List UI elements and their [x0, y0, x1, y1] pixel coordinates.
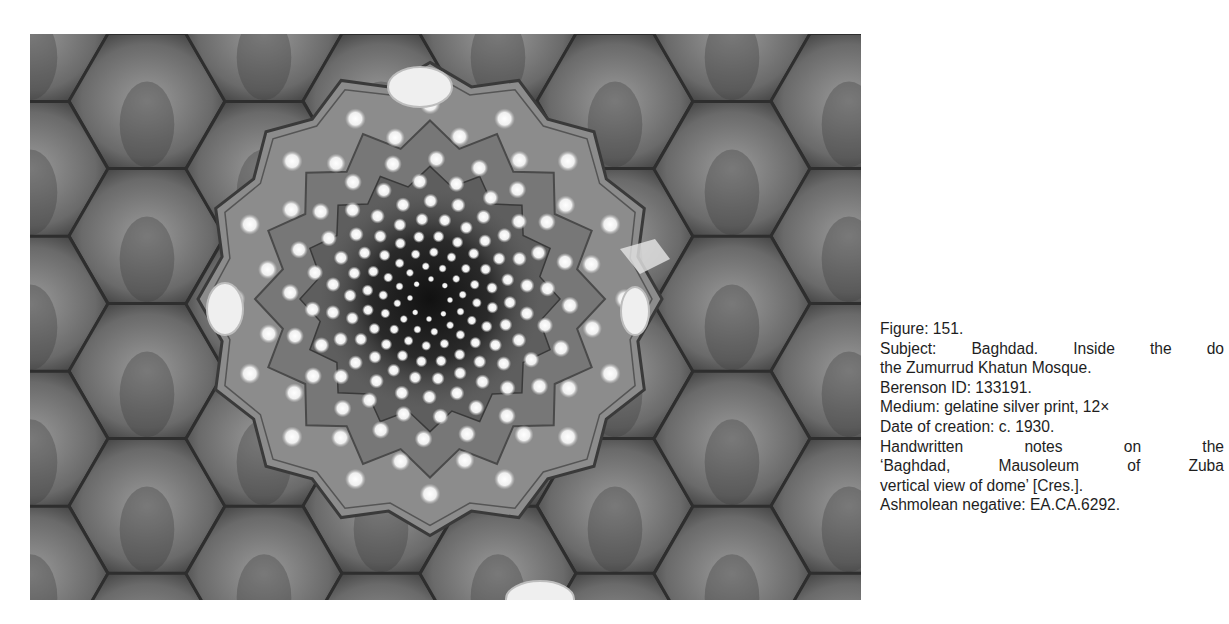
date-of-creation: Date of creation: c. 1930.: [880, 417, 1229, 437]
caption-word: the: [1150, 339, 1172, 359]
caption-word: Handwritten: [880, 437, 963, 457]
figure-caption: Figure: 151. Subject: Baghdad. Inside th…: [880, 319, 1229, 515]
caption-word: on: [1124, 437, 1141, 457]
caption-word: Baghdad.: [971, 339, 1038, 359]
subject-line-2: the Zumurrud Khatun Mosque.: [880, 358, 1229, 378]
notes-line-3: vertical view of dome’ [Cres.].: [880, 476, 1229, 496]
subject-line-1: Subject: Baghdad. Inside the do: [880, 339, 1224, 359]
notes-line-1: Handwritten notes on the: [880, 437, 1224, 457]
dome-illustration: [30, 34, 861, 600]
caption-word: Mausoleum: [998, 456, 1079, 476]
caption-word: Zuba: [1188, 456, 1224, 476]
caption-word: ‘Baghdad,: [880, 456, 950, 476]
notes-line-2: ‘Baghdad, Mausoleum of Zuba: [880, 456, 1224, 476]
figure-number: Figure: 151.: [880, 319, 1229, 339]
caption-word: Inside: [1073, 339, 1115, 359]
berenson-id: Berenson ID: 133191.: [880, 378, 1229, 398]
caption-word: the: [1202, 437, 1224, 457]
ashmolean-negative: Ashmolean negative: EA.CA.6292.: [880, 495, 1229, 515]
caption-word: do: [1207, 339, 1224, 359]
caption-word: of: [1127, 456, 1140, 476]
dome-photograph: [30, 34, 861, 600]
medium: Medium: gelatine silver print, 12×: [880, 397, 1229, 417]
caption-word: Subject:: [880, 339, 936, 359]
caption-word: notes: [1024, 437, 1062, 457]
